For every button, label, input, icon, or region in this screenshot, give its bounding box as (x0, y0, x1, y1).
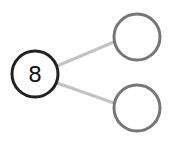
part-circle-top[interactable] (114, 14, 160, 60)
number-bond-diagram: 8 (0, 0, 177, 144)
connector-bottom (57, 83, 114, 103)
connector-top (57, 42, 114, 66)
whole-value: 8 (28, 62, 42, 87)
whole-circle: 8 (12, 51, 58, 97)
part-circle-bottom[interactable] (114, 85, 160, 131)
